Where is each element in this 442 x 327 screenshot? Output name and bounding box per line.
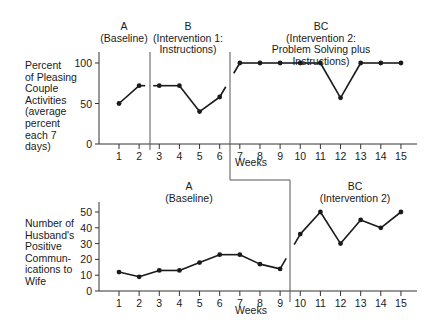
top-data-point	[399, 61, 404, 66]
top-x-tick-label: 11	[315, 150, 326, 162]
top-y-axis-label: Percent of Pleasing Couple Activities (a…	[25, 60, 77, 153]
bottom-data-point	[117, 270, 122, 275]
bottom-data-line	[119, 272, 139, 277]
top-x-tick-label: 9	[277, 150, 283, 162]
top-x-tick-label: 2	[136, 150, 142, 162]
bottom-phase-bc-label: BC (Intervention 2)	[320, 181, 391, 204]
bottom-data-point	[338, 241, 343, 246]
bottom-data-point	[197, 260, 202, 265]
bottom-x-tick-label: 4	[176, 297, 182, 309]
bottom-data-point	[177, 268, 182, 273]
top-phase-bc-label: BC (Intervention 2: Problem Solving plus…	[261, 21, 382, 67]
bottom-data-point	[298, 232, 303, 237]
bottom-data-line	[320, 212, 340, 244]
top-x-tick-label: 1	[116, 150, 122, 162]
bottom-x-axis-label: Weeks	[235, 305, 267, 317]
bottom-data-line	[361, 220, 381, 228]
top-y-tick-label: 50	[80, 98, 92, 110]
bottom-x-tick-label: 2	[136, 297, 142, 309]
top-x-tick-label: 4	[176, 150, 182, 162]
top-data-line	[341, 63, 361, 98]
top-data-point	[137, 83, 142, 88]
bottom-data-point	[237, 252, 242, 257]
bottom-x-tick-label: 10	[294, 297, 306, 309]
bottom-x-tick-label: 14	[375, 297, 387, 309]
bottom-y-tick-label: 50	[80, 206, 92, 218]
bottom-data-line	[260, 264, 280, 269]
bottom-y-tick-label: 20	[80, 253, 92, 265]
top-data-line	[119, 86, 139, 104]
bottom-x-tick-label: 12	[335, 297, 347, 309]
bottom-y-axis-label: Number of Husband's Positive Commun- ica…	[25, 218, 74, 288]
bottom-data-line	[240, 255, 260, 264]
bottom-data-point	[399, 210, 404, 215]
bottom-data-point	[318, 210, 323, 215]
top-phase-a-label: A (Baseline)	[100, 21, 147, 44]
top-data-point	[338, 95, 343, 100]
bottom-x-tick-label: 13	[355, 297, 367, 309]
top-data-line	[200, 97, 220, 112]
top-x-tick-label: 12	[335, 150, 347, 162]
bottom-x-tick-label: 6	[217, 297, 223, 309]
bottom-data-point	[358, 218, 363, 223]
bottom-x-tick-label: 3	[156, 297, 162, 309]
top-x-tick-label: 15	[395, 150, 407, 162]
top-x-tick-label: 5	[197, 150, 203, 162]
top-x-tick-label: 10	[294, 150, 306, 162]
top-y-tick-label: 100	[74, 57, 92, 69]
bottom-x-tick-label: 15	[395, 297, 407, 309]
top-x-tick-label: 13	[355, 150, 367, 162]
bottom-y-tick-label: 40	[80, 222, 92, 234]
bottom-phase-a-label: A (Baseline)	[165, 181, 212, 204]
top-x-axis-label: Weeks	[235, 157, 267, 169]
bottom-y-tick-label: 30	[80, 238, 92, 250]
bottom-data-point	[217, 252, 222, 257]
top-x-tick-label: 14	[375, 150, 387, 162]
bottom-data-point	[137, 274, 142, 279]
top-phase-b-label: B (Intervention 1: Instructions)	[153, 21, 223, 56]
bottom-data-line	[381, 212, 401, 228]
bottom-data-line	[300, 212, 320, 234]
bottom-data-line	[200, 255, 220, 263]
bottom-x-tick-label: 1	[116, 297, 122, 309]
top-data-line	[320, 63, 340, 98]
bottom-y-tick-label: 0	[86, 285, 92, 297]
top-data-point	[197, 109, 202, 114]
top-data-point	[217, 95, 222, 100]
bottom-data-line	[341, 220, 361, 244]
bottom-data-line	[179, 263, 199, 271]
bottom-data-point	[378, 225, 383, 230]
top-data-point	[177, 83, 182, 88]
top-x-tick-label: 6	[217, 150, 223, 162]
bottom-x-tick-label: 5	[197, 297, 203, 309]
top-data-line	[179, 86, 199, 112]
bottom-x-tick-label: 9	[277, 297, 283, 309]
bottom-data-point	[258, 262, 263, 267]
top-data-point	[117, 101, 122, 106]
top-data-point	[237, 61, 242, 66]
top-y-tick-label: 0	[86, 138, 92, 150]
bottom-data-line	[139, 270, 159, 276]
bottom-y-tick-label: 10	[80, 269, 92, 281]
bottom-x-tick-label: 11	[315, 297, 326, 309]
bottom-data-point	[157, 268, 162, 273]
top-x-tick-label: 3	[156, 150, 162, 162]
top-data-point	[157, 83, 162, 88]
bottom-data-point	[278, 266, 283, 271]
